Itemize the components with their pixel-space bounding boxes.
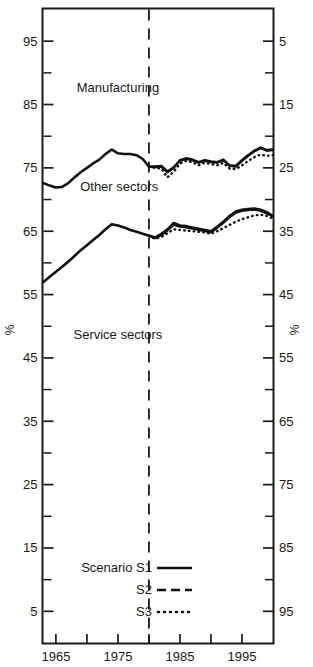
- right-tick-label: 55: [279, 350, 293, 365]
- left-tick-label: 35: [23, 414, 37, 429]
- bottom-tick-label: 1965: [41, 649, 70, 664]
- right-tick-label: 35: [279, 224, 293, 239]
- right-axis-ticks: [263, 41, 273, 611]
- left-axis-tick-labels: 9585756555453525155: [23, 34, 37, 619]
- right-axis-unit-label: %: [288, 324, 302, 335]
- left-tick-label: 55: [23, 287, 37, 302]
- left-tick-label: 75: [23, 160, 37, 175]
- left-tick-label: 65: [23, 224, 37, 239]
- annotation-other-sectors: Other sectors: [80, 179, 159, 194]
- right-tick-label: 75: [279, 477, 293, 492]
- chart-svg: 9585756555453525155 5152535455565758595 …: [0, 0, 313, 667]
- right-tick-label: 25: [279, 160, 293, 175]
- legend-item-s3-label: S3: [136, 604, 152, 619]
- right-tick-label: 85: [279, 540, 293, 555]
- legend-item-s2-label: S2: [136, 582, 152, 597]
- left-axis-unit-label: %: [3, 324, 17, 335]
- right-tick-label: 15: [279, 97, 293, 112]
- annotation-manufacturing: Manufacturing: [77, 80, 159, 95]
- left-tick-label: 85: [23, 97, 37, 112]
- data-series-group: [44, 148, 274, 282]
- left-tick-label: 45: [23, 350, 37, 365]
- left-tick-label: 95: [23, 34, 37, 49]
- left-tick-label: 15: [23, 540, 37, 555]
- left-tick-label: 25: [23, 477, 37, 492]
- bottom-axis-tick-labels: 1965197519851995: [41, 649, 256, 664]
- right-tick-label: 65: [279, 414, 293, 429]
- series-line-service-sectors-s3: [149, 215, 273, 239]
- right-tick-label: 5: [279, 34, 286, 49]
- bottom-tick-label: 1985: [165, 649, 194, 664]
- legend: Scenario S1 S2 S3: [81, 560, 192, 619]
- left-axis-ticks: [44, 41, 54, 611]
- chart-figure: 9585756555453525155 5152535455565758595 …: [0, 0, 313, 667]
- left-tick-label: 5: [30, 604, 37, 619]
- right-tick-label: 95: [279, 604, 293, 619]
- legend-item-s1-label: Scenario S1: [81, 560, 152, 575]
- bottom-tick-label: 1975: [103, 649, 132, 664]
- series-line-other-sectors-s3: [149, 155, 273, 178]
- right-tick-label: 45: [279, 287, 293, 302]
- bottom-tick-label: 1995: [228, 649, 257, 664]
- annotation-service-sectors: Service sectors: [73, 327, 162, 342]
